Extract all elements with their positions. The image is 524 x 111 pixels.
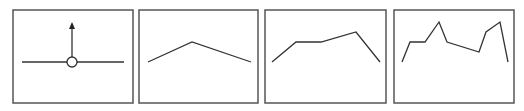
panel-2 <box>139 10 258 103</box>
profile-line <box>148 42 251 62</box>
panel-frame <box>265 10 386 103</box>
node-circle <box>67 57 77 67</box>
profile-line <box>272 32 380 62</box>
panel-frame <box>139 10 258 103</box>
profile-line <box>402 22 508 62</box>
diagram-canvas <box>0 0 524 111</box>
panel-1 <box>13 10 133 103</box>
arrowhead-icon <box>69 22 75 29</box>
panel-frame <box>394 10 514 103</box>
panel-4 <box>394 10 514 103</box>
panel-3 <box>265 10 386 103</box>
